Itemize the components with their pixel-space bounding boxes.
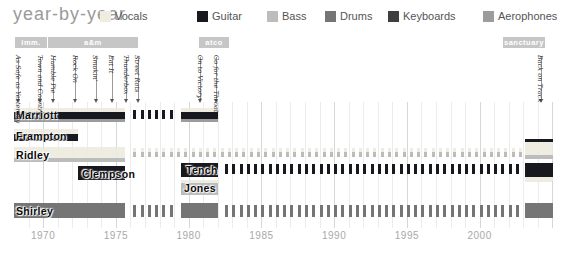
membership-dash-shirley: [327, 205, 330, 217]
guitar-dash-stripe: [363, 164, 366, 174]
membership-dash-tench: [298, 164, 301, 174]
guitar-dash-stripe: [436, 164, 439, 174]
drums-dash-stripe: [501, 205, 504, 217]
guitar-dash-stripe: [480, 164, 483, 174]
drums-dash-stripe: [363, 205, 366, 217]
membership-dash-tench: [443, 164, 446, 174]
guitar-dash-stripe: [501, 164, 504, 174]
guitar-dash-stripe: [269, 164, 272, 174]
bass-dash-stripe: [373, 152, 376, 157]
membership-dash-tench: [472, 164, 475, 174]
legend-swatch-icon: [483, 11, 494, 22]
guitar-dash-stripe: [225, 164, 228, 174]
bass-dash-stripe: [475, 152, 478, 157]
bass-dash-stripe: [148, 152, 151, 157]
guitar-dash-stripe: [320, 164, 323, 174]
membership-dash-ridley: [155, 148, 158, 157]
drums-dash-stripe: [494, 205, 497, 217]
guitar-dash-stripe: [276, 164, 279, 174]
guitar-dash-stripe: [516, 164, 519, 174]
membership-dash-ridley: [497, 148, 500, 157]
guitar-dash-stripe: [385, 164, 388, 174]
bass-dash-stripe: [257, 152, 260, 157]
member-name-ridley: Ridley: [16, 149, 49, 161]
membership-dash-tench: [516, 164, 519, 174]
bass-stripe: [525, 155, 553, 159]
member-bar-tench: [525, 163, 553, 182]
membership-dash-ridley: [228, 148, 231, 157]
drums-dash-stripe: [487, 205, 490, 217]
membership-dash-ridley: [403, 148, 406, 157]
membership-dash-shirley: [480, 205, 483, 217]
bass-dash-stripe: [519, 152, 522, 157]
membership-dash-tench: [305, 164, 308, 174]
record-label-era: imm.: [15, 37, 46, 48]
guitar-dash-stripe: [494, 164, 497, 174]
bass-dash-stripe: [308, 152, 311, 157]
membership-dash-shirley: [407, 205, 410, 217]
drums-dash-stripe: [269, 205, 272, 217]
drums-dash-stripe: [240, 205, 243, 217]
drums-dash-stripe: [133, 205, 136, 217]
membership-dash-shirley: [429, 205, 432, 217]
album-title: Street Rats: [134, 55, 141, 92]
membership-dash-shirley: [494, 205, 497, 217]
drums-dash-stripe: [385, 205, 388, 217]
arrow-down-icon: [51, 99, 55, 103]
guitar-dash-stripe: [341, 164, 344, 174]
membership-dash-ridley: [279, 148, 282, 157]
membership-dash-tench: [392, 164, 395, 174]
drums-dash-stripe: [472, 205, 475, 217]
bass-dash-stripe: [468, 152, 471, 157]
membership-dash-shirley: [283, 205, 286, 217]
membership-dash-tench: [254, 164, 257, 174]
membership-dash-marriott: [141, 110, 144, 119]
membership-dash-tench: [240, 164, 243, 174]
membership-dash-ridley: [170, 148, 173, 157]
bass-dash-stripe: [141, 152, 144, 157]
bass-dash-stripe: [359, 152, 362, 157]
album-title: On to Victory: [196, 55, 203, 99]
membership-dash-ridley: [381, 148, 384, 157]
bass-dash-stripe: [330, 152, 333, 157]
membership-dash-tench: [494, 164, 497, 174]
bass-dash-stripe: [228, 152, 231, 157]
guitar-dash-stripe: [247, 164, 250, 174]
arrow-down-icon: [136, 99, 140, 103]
membership-dash-shirley: [465, 205, 468, 217]
member-name-tench: Tench: [186, 164, 218, 176]
album-title: Eat It: [108, 55, 115, 73]
bass-dash-stripe: [264, 152, 267, 157]
membership-dash-ridley: [213, 148, 216, 157]
guitar-dash-stripe: [371, 164, 374, 174]
membership-dash-tench: [349, 164, 352, 174]
guitar-dash-stripe: [392, 164, 395, 174]
legend-label: Keyboards: [403, 10, 456, 22]
membership-dash-tench: [312, 164, 315, 174]
bass-dash-stripe: [279, 152, 282, 157]
x-axis-tick-label: 1980: [176, 230, 200, 241]
membership-dash-shirley: [141, 205, 144, 217]
membership-dash-shirley: [414, 205, 417, 217]
bass-dash-stripe: [432, 152, 435, 157]
guitar-dash-stripe: [162, 110, 165, 119]
membership-dash-shirley: [451, 205, 454, 217]
bass-dash-stripe: [461, 152, 464, 157]
album-title: Back on Track: [537, 55, 544, 102]
membership-dash-shirley: [443, 205, 446, 217]
membership-dash-ridley: [242, 148, 245, 157]
membership-dash-ridley: [366, 148, 369, 157]
membership-dash-tench: [378, 164, 381, 174]
membership-dash-marriott: [133, 110, 136, 119]
membership-dash-tench: [356, 164, 359, 174]
drums-dash-stripe: [349, 205, 352, 217]
x-axis-tick-label: 2000: [467, 230, 491, 241]
membership-dash-tench: [451, 164, 454, 174]
drums-dash-stripe: [407, 205, 410, 217]
bass-dash-stripe: [286, 152, 289, 157]
member-name-shirley: Shirley: [16, 205, 53, 217]
guitar-dash-stripe: [465, 164, 468, 174]
membership-dash-ridley: [199, 148, 202, 157]
membership-dash-ridley: [373, 148, 376, 157]
membership-dash-ridley: [453, 148, 456, 157]
